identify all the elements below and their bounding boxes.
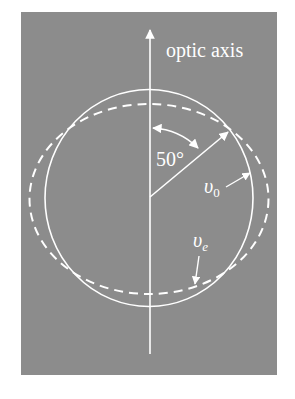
angle-label: 50° — [156, 148, 184, 170]
ordinary-velocity-subscript: 0 — [213, 185, 220, 200]
extraordinary-velocity-symbol: υ — [193, 229, 202, 251]
ordinary-velocity-symbol: υ — [204, 175, 213, 197]
extraordinary-velocity-subscript: e — [202, 239, 208, 254]
wave-surface-diagram: optic axis 50° υ0 υe — [0, 0, 295, 399]
diagram-panel — [21, 12, 277, 375]
optic-axis-label: optic axis — [166, 39, 243, 62]
